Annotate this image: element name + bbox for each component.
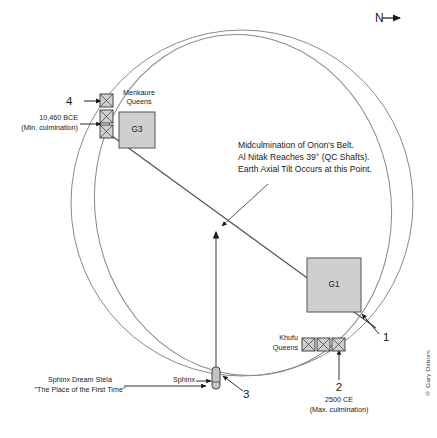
khufu-queen-3 [332,338,345,351]
left-note-line2: (Min. culmination) [0,123,78,132]
bottom-note-line2: (Max. culmination) [295,405,383,414]
north-label: N [375,11,384,26]
khufu-queens-label-line1: Khufu [254,333,298,342]
diagram-canvas: N 4 Menkaure Queens G3 10,460 BCE (Min. … [0,0,437,438]
marker-3-label: 3 [243,387,249,401]
menkaure-queen-3 [100,125,113,138]
giza-orion-alignment-diagram [0,0,437,438]
menkaure-queens-label-line2: Queens [115,97,163,106]
pyramid-g1-label: G1 [307,280,361,290]
menkaure-queen-2 [100,110,113,123]
menkaure-queen-1 [100,94,113,107]
left-note-line1: 10,460 BCE [0,113,78,122]
copyright-label: © Gary Osborn [424,350,431,397]
center-note-line1: Midculmination of Orion's Belt. [238,140,354,151]
center-note-line2: Al Nitak Reaches 39° (QC Shafts). [238,152,369,163]
marker-2-label: 2 [325,380,353,394]
bottom-note-line1: 2500 CE [299,395,379,404]
marker-3-leader [223,376,243,391]
pyramid-g3-label: G3 [119,125,155,135]
sphinx-shape [212,367,220,389]
marker-4-label: 4 [66,94,72,108]
outer-circle [71,30,413,376]
center-note-line3: Earth Axial Tilt Occurs at this Point. [238,164,372,175]
menkaure-queens-label-line1: Menkaure [115,88,163,97]
sphinx-stela-line1: Sphinx Dream Stela [30,375,130,384]
sphinx-stela-line2: "The Place of the First Time" [16,385,144,394]
khufu-queen-2 [317,338,330,351]
khufu-queen-1 [302,338,315,351]
khufu-queens-label-line2: Queens [254,343,298,352]
center-note-leader [222,184,268,226]
sphinx-label: Sphinx [150,375,195,384]
marker-1-label: 1 [383,330,389,344]
inner-circle [70,13,416,397]
